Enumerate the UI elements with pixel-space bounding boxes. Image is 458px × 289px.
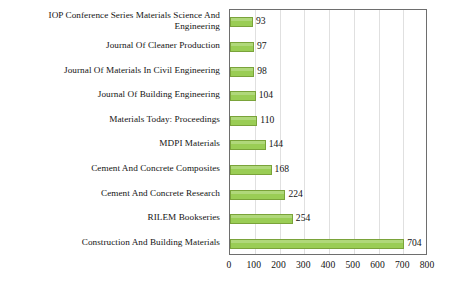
gridline — [403, 10, 404, 254]
bar-highlight — [231, 215, 292, 218]
x-tick-label: 400 — [321, 259, 335, 271]
bar — [230, 214, 293, 224]
bar-highlight — [231, 92, 255, 95]
category-label: Materials Today: Proceedings — [2, 114, 220, 126]
x-tick-label: 700 — [395, 259, 409, 271]
category-label: Journal Of Materials In Civil Engineerin… — [2, 65, 220, 77]
category-label: RILEM Bookseries — [2, 212, 220, 224]
x-tick-label: 200 — [271, 259, 285, 271]
bar-value-label: 104 — [259, 90, 273, 100]
bar-value-label: 168 — [275, 164, 289, 174]
x-axis-tick-labels: 0100200300400500600700800 — [229, 259, 427, 275]
bar-value-label: 254 — [296, 213, 310, 223]
bar-value-label: 97 — [257, 41, 267, 51]
gridline — [329, 10, 330, 254]
bar-highlight — [231, 141, 265, 144]
bar — [230, 17, 253, 27]
bar-value-label: 704 — [407, 238, 421, 248]
x-tick-label: 500 — [346, 259, 360, 271]
x-tick-label: 800 — [420, 259, 434, 271]
bar-highlight — [231, 68, 253, 71]
gridline — [354, 10, 355, 254]
category-label: MDPI Materials — [2, 138, 220, 150]
gridline — [379, 10, 380, 254]
bar-value-label: 224 — [288, 189, 302, 199]
bar-value-label: 93 — [256, 16, 266, 26]
category-label: IOP Conference Series Materials Science … — [2, 10, 220, 33]
bar — [230, 140, 266, 150]
category-label: Journal Of Building Engineering — [2, 89, 220, 101]
bar — [230, 91, 256, 101]
bar-chart: IOP Conference Series Materials Science … — [0, 0, 458, 289]
bar-value-label: 110 — [260, 115, 274, 125]
bar — [230, 42, 254, 52]
category-axis-labels: IOP Conference Series Materials Science … — [0, 9, 227, 255]
x-tick-label: 0 — [227, 259, 232, 271]
bar — [230, 239, 404, 249]
bar-value-label: 144 — [269, 139, 283, 149]
bar-highlight — [231, 43, 253, 46]
bar-highlight — [231, 240, 403, 243]
bar — [230, 116, 257, 126]
bar — [230, 190, 285, 200]
bar-highlight — [231, 117, 256, 120]
bar — [230, 67, 254, 77]
bar-value-label: 98 — [257, 66, 267, 76]
x-tick-label: 300 — [296, 259, 310, 271]
bar-highlight — [231, 191, 284, 194]
bar-highlight — [231, 18, 252, 21]
x-tick-label: 600 — [370, 259, 384, 271]
bar-highlight — [231, 166, 271, 169]
category-label: Journal Of Cleaner Production — [2, 40, 220, 52]
bar — [230, 165, 272, 175]
category-label: Cement And Concrete Composites — [2, 163, 220, 175]
x-tick-label: 100 — [247, 259, 261, 271]
category-label: Cement And Concrete Research — [2, 188, 220, 200]
category-label: Construction And Building Materials — [2, 237, 220, 249]
